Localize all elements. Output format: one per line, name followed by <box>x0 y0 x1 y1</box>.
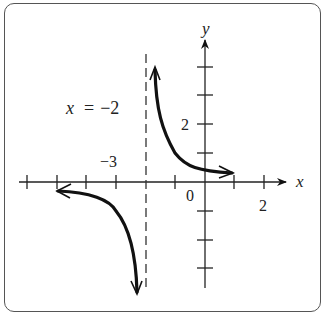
asymptote-label: x=−2 <box>65 98 119 118</box>
y-axis-label: y <box>200 19 210 38</box>
y-tick-label-2: 2 <box>181 116 189 133</box>
x-axis-label: x <box>295 172 304 191</box>
curve-right-branch <box>150 67 233 178</box>
x-tick-label-2: 2 <box>259 197 267 214</box>
x-axis <box>19 175 286 189</box>
y-axis <box>197 40 213 288</box>
curve-left-branch <box>57 184 142 294</box>
x-tick-label-neg3: −3 <box>100 153 117 170</box>
chart-plot: y x x=−2 −3 0 2 2 <box>0 0 328 322</box>
origin-label: 0 <box>186 187 194 204</box>
